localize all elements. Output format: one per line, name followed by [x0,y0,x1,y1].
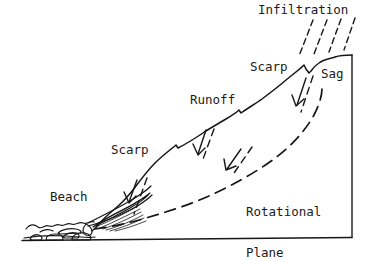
infiltration-arrow-2 [314,20,327,54]
infiltration-arrows-group [299,18,355,56]
label-scarp-upper: Scarp [250,60,288,74]
beach-rock-6 [40,230,53,232]
label-infiltration: Infiltration [258,3,348,17]
label-sag: Sag [321,67,344,81]
beach-rock-2 [46,234,63,240]
beach-group [24,222,95,240]
infiltration-arrow-4 [344,18,355,50]
label-rotational-line1: Rotational [246,205,321,219]
infiltration-arrow-3 [329,19,341,52]
label-rotational-plane: Rotational Plane [246,178,321,261]
beach-shore-edge [24,236,95,238]
label-beach: Beach [50,190,88,204]
runoff-dash-mid [202,129,214,162]
debris-wedge-hatching [96,203,146,231]
label-scarp-lower: Scarp [111,143,149,157]
label-rotational-line2: Plane [246,246,321,260]
infiltration-arrow-1 [299,20,313,56]
landslide-cross-section-figure: Infiltration Scarp Sag Runoff Scarp Rota… [0,0,376,261]
label-runoff: Runoff [190,93,235,107]
runoff-dash-upper [232,147,252,176]
runoff-arrow-upper-shaft [227,149,241,169]
scarp-dash-upper [301,76,313,112]
